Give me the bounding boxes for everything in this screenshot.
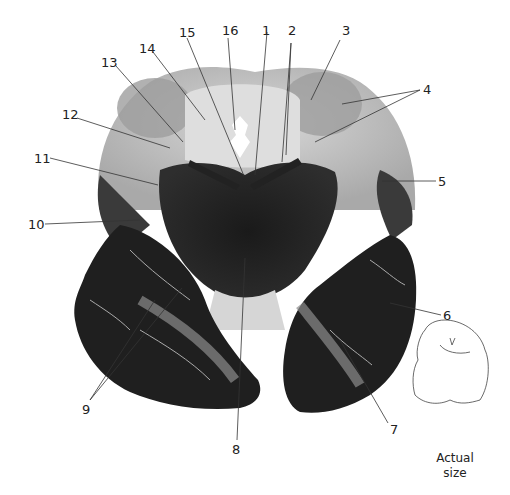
label-11: 11 xyxy=(34,152,51,165)
label-4: 4 xyxy=(423,83,431,96)
anatomy-figure: 1 2 3 4 5 6 7 8 9 10 11 12 13 14 15 16 A… xyxy=(0,0,510,495)
label-6: 6 xyxy=(443,309,451,322)
brainstem-section-illustration xyxy=(0,0,510,495)
label-5: 5 xyxy=(438,175,446,188)
label-15: 15 xyxy=(179,26,196,39)
label-2: 2 xyxy=(288,24,296,37)
label-13: 13 xyxy=(101,56,118,69)
label-14: 14 xyxy=(139,42,156,55)
actual-size-inset-drawing xyxy=(413,320,488,403)
caption-line-2: size xyxy=(425,466,485,481)
label-1: 1 xyxy=(262,24,270,37)
label-8: 8 xyxy=(232,443,240,456)
label-7: 7 xyxy=(390,423,398,436)
label-3: 3 xyxy=(342,24,350,37)
label-10: 10 xyxy=(28,218,45,231)
label-16: 16 xyxy=(222,24,239,37)
actual-size-caption: Actual size xyxy=(425,451,485,481)
label-12: 12 xyxy=(62,108,79,121)
label-9: 9 xyxy=(82,403,90,416)
colliculus-left xyxy=(117,78,193,138)
caption-line-1: Actual xyxy=(425,451,485,466)
